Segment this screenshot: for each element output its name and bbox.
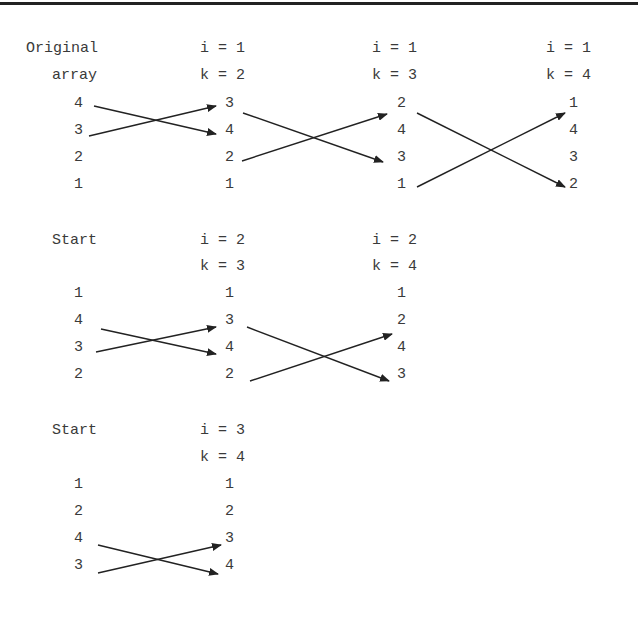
arrow-p1-d	[242, 114, 387, 161]
arrow-p2-c	[247, 327, 389, 381]
arrow-p1-b	[89, 106, 216, 136]
arrow-p2-b	[96, 327, 216, 352]
swap-arrows	[0, 0, 638, 617]
arrow-p2-a	[101, 329, 216, 354]
